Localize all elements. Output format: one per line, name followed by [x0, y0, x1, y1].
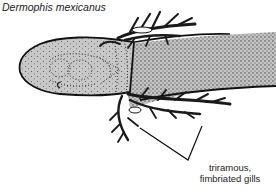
head	[20, 37, 134, 95]
annotation-pointer	[140, 126, 202, 160]
gill-highlight	[132, 27, 152, 33]
gill-base-highlight	[129, 107, 141, 113]
gills-annotation: triramous, fimbriated gills	[180, 162, 276, 184]
annotation-line-1: triramous,	[180, 162, 276, 173]
annotation-line-2: fimbriated gills	[180, 173, 276, 184]
